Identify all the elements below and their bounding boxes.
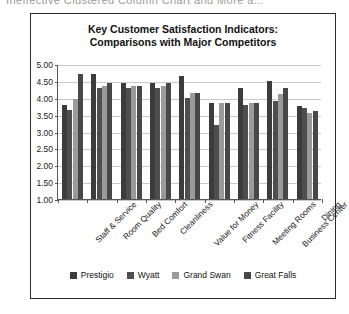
bar-grand-swan (307, 113, 312, 199)
bar-wyatt (214, 125, 219, 199)
bar-prestigio (179, 76, 184, 199)
bar-great-falls (225, 103, 230, 199)
bar-group (175, 65, 204, 199)
bar-group (146, 65, 175, 199)
bar-group (263, 65, 292, 199)
bar-great-falls (313, 111, 318, 199)
legend-swatch-icon (172, 272, 179, 279)
page-caption-strip: Ineffective Clustered Column Chart and M… (0, 0, 349, 11)
bar-grand-swan (73, 99, 78, 199)
chart-title-line-2: Comparisons with Major Competitors (31, 36, 335, 49)
bar-grand-swan (249, 103, 254, 199)
bar-group (87, 65, 116, 199)
bar-great-falls (283, 88, 288, 199)
bar-grand-swan (278, 94, 283, 199)
bar-prestigio (238, 88, 243, 199)
bar-wyatt (243, 105, 248, 200)
bar-wyatt (155, 88, 160, 199)
x-axis-label: Staff & Service (94, 200, 139, 245)
legend-item-great-falls[interactable]: Great Falls (244, 270, 297, 280)
bar-prestigio (209, 103, 214, 199)
page-caption-text: Ineffective Clustered Column Chart and M… (6, 0, 264, 6)
y-axis-tick-label: 3.00 (36, 133, 53, 134)
bar-prestigio (297, 106, 302, 199)
bar-grand-swan (102, 86, 107, 199)
bar-group (205, 65, 234, 199)
legend-item-grand-swan[interactable]: Grand Swan (172, 270, 230, 280)
bar-prestigio (150, 83, 155, 199)
chart-page: Ineffective Clustered Column Chart and M… (0, 0, 349, 314)
bar-grand-swan (131, 86, 136, 199)
legend-item-wyatt[interactable]: Wyatt (127, 270, 160, 280)
legend-label: Wyatt (138, 270, 160, 280)
y-axis-tick-label: 4.50 (36, 82, 53, 83)
bar-series-container (58, 65, 321, 199)
bar-prestigio (91, 74, 96, 199)
bar-wyatt (273, 101, 278, 199)
bar-wyatt (185, 98, 190, 199)
legend-item-prestigio[interactable]: Prestigio (70, 270, 114, 280)
legend-swatch-icon (127, 272, 134, 279)
bar-group (58, 65, 87, 199)
y-axis-tick-label: 5.00 (36, 65, 53, 66)
y-axis-tick-label: 4.00 (36, 99, 53, 100)
legend-swatch-icon (244, 272, 251, 279)
bar-group (117, 65, 146, 199)
bar-group (234, 65, 263, 199)
x-axis-category-labels: Staff & ServiceRoom QualityBed ComfortCl… (57, 200, 321, 262)
legend-label: Prestigio (81, 270, 114, 280)
legend-label: Great Falls (255, 270, 297, 280)
bar-great-falls (195, 93, 200, 199)
bar-great-falls (166, 83, 171, 199)
bar-great-falls (254, 103, 259, 199)
bar-prestigio (267, 81, 272, 199)
bar-prestigio (121, 83, 126, 199)
y-axis-tick-label: 3.50 (36, 116, 53, 117)
chart-title-line-1: Key Customer Satisfaction Indicators: (31, 23, 335, 36)
bar-group (293, 65, 322, 199)
y-axis-tick-label: 2.50 (36, 149, 53, 150)
legend-swatch-icon (70, 272, 77, 279)
bar-wyatt (302, 108, 307, 199)
bar-grand-swan (219, 103, 224, 199)
x-tick-mark (322, 199, 323, 203)
bar-great-falls (107, 83, 112, 199)
bar-wyatt (97, 88, 102, 199)
bar-wyatt (67, 110, 72, 199)
y-axis-tick-label: 1.50 (36, 183, 53, 184)
bar-wyatt (126, 88, 131, 199)
chart-title: Key Customer Satisfaction Indicators: Co… (31, 23, 335, 49)
bar-great-falls (78, 74, 83, 199)
legend-label: Grand Swan (183, 270, 230, 280)
bar-grand-swan (190, 93, 195, 199)
chart-legend: PrestigioWyattGrand SwanGreat Falls (31, 270, 335, 280)
bar-prestigio (62, 105, 67, 200)
bar-great-falls (137, 86, 142, 199)
plot-area: 5.004.504.003.503.002.502.001.501.00 (57, 65, 321, 200)
y-axis-tick-label: 1.00 (36, 200, 53, 201)
y-axis-tick-label: 2.00 (36, 166, 53, 167)
chart-container: Key Customer Satisfaction Indicators: Co… (30, 13, 336, 299)
bar-grand-swan (161, 86, 166, 199)
